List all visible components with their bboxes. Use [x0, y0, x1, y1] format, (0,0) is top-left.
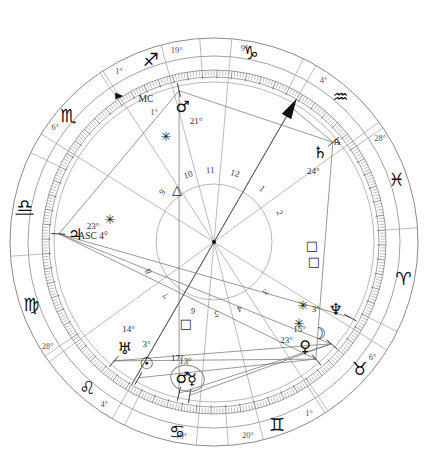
- cusp-degree-house-2: 28°: [374, 133, 386, 143]
- sign-glyph-sagittarius: ♐: [143, 49, 159, 70]
- sign-glyph-aquarius: ♒: [333, 86, 349, 107]
- planet-glyph-moon: ☽: [312, 324, 326, 343]
- planet-glyph-pluto: ♂: [176, 97, 190, 116]
- cusp-degree-house-10: 1°: [115, 66, 123, 76]
- planet-glyph-mercury: ☿: [187, 370, 197, 389]
- cusp-degree-house-7: 4°: [101, 399, 109, 409]
- sign-glyph-leo: ♌: [79, 377, 95, 398]
- mc-degree: 1°: [150, 107, 158, 117]
- sign-glyph-gemini: ♊: [269, 414, 285, 435]
- planet-glyph-saturn: ♄: [313, 143, 327, 162]
- cusp-line-house-12: [214, 39, 232, 242]
- mc-label: MC: [139, 94, 154, 104]
- cusp-degree-house-5: 20°: [242, 430, 254, 440]
- asc-label: ASC 4°: [78, 231, 108, 241]
- aspect-symbol-sextile-0: ✳: [161, 129, 172, 144]
- ascendant-arrow: [282, 99, 297, 119]
- cusp-degree-house-11: 19°: [171, 45, 183, 55]
- aspect-symbol-sextile-6: ✳: [298, 298, 309, 313]
- aspect-symbol-square-3: □: [180, 316, 192, 331]
- sign-glyph-pisces: ♓: [388, 169, 404, 190]
- aspect-symbol-square-4: □: [306, 238, 318, 253]
- aspect-symbol-square-5: □: [308, 254, 320, 269]
- sign-glyph-virgo: ♍: [23, 294, 39, 315]
- sign-glyph-libra: ♎: [16, 195, 32, 216]
- sign-glyph-taurus: ♉: [352, 358, 368, 379]
- house-number-1: 1: [257, 183, 267, 193]
- cusp-line-house-6: [196, 242, 214, 445]
- house-number-10: 10: [182, 168, 194, 181]
- sign-glyph-aries: ♈: [395, 268, 411, 289]
- cusp-degree-house-3: 6°: [369, 352, 377, 362]
- house-number-4: 4: [235, 304, 243, 315]
- cusp-degree-house-4: 1°: [305, 408, 313, 418]
- cusp-line-house-5: [214, 242, 263, 440]
- retrograde-marker-saturn: ℞: [334, 138, 341, 147]
- house-number-12: 12: [229, 167, 241, 179]
- planet-glyph-sun: ☉: [139, 354, 153, 373]
- cusp-degree-house-8: 28°: [42, 341, 54, 351]
- cusp-line-house-9: [41, 134, 214, 242]
- planet-degree-sun: 3°: [143, 339, 152, 349]
- planet-degree-venus: 23°: [280, 335, 293, 345]
- cusp-line-house-2: [214, 122, 379, 242]
- house-number-2: 2: [274, 209, 285, 217]
- cusp-degree-house-9: 6°: [52, 122, 60, 132]
- planet-glyph-neptune: ♆: [328, 300, 342, 319]
- planet-glyph-uranus: ♅: [117, 339, 131, 358]
- chart-center: [212, 240, 216, 244]
- sign-glyph-scorpio: ♏: [60, 105, 76, 126]
- planet-degree-jupiter: 23°: [87, 221, 100, 231]
- planet-glyph-venus: ♀: [299, 337, 311, 356]
- aspect-symbol-trine-1: △: [172, 182, 182, 197]
- angle-labels: ASC 4°MC1°: [78, 94, 158, 241]
- planet-degree-saturn: 24°: [307, 166, 320, 176]
- planet-degree-uranus: 14°: [122, 324, 135, 334]
- cusp-degree-house-12: 9°: [241, 43, 249, 53]
- chart-wheel-svg: ♈♉♊♋♌♍♎♏♐♑♒♓ 4°28°6°1°20°9°4°28°6°1°19°9…: [0, 0, 428, 461]
- aspect-symbol-sextile-7: ✳: [294, 316, 305, 331]
- planet-degree-pluto: 21°: [190, 116, 203, 126]
- planet-degree-neptune: 3°: [312, 304, 321, 314]
- house-number-9: 9: [157, 187, 168, 198]
- house-number-7: 7: [160, 290, 170, 301]
- planet-degree-mercury: 13°: [179, 356, 192, 366]
- cusp-degree-house-1: 4°: [320, 75, 328, 85]
- natal-chart: ♈♉♊♋♌♍♎♏♐♑♒♓ 4°28°6°1°20°9°4°28°6°1°19°9…: [0, 0, 428, 461]
- house-number-5: 5: [214, 309, 219, 319]
- cusp-degree-house-6: 9°: [180, 431, 188, 441]
- aspect-symbol-sextile-2: ✳: [105, 212, 116, 227]
- house-number-11: 11: [206, 165, 215, 175]
